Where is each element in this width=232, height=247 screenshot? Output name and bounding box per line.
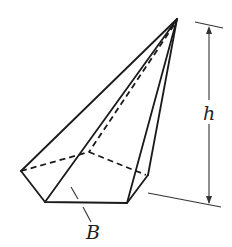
visible-edges bbox=[21, 19, 177, 203]
arrowhead-down-icon bbox=[206, 196, 212, 204]
edge-apex-front-left bbox=[45, 19, 177, 202]
pyramid-diagram: h B bbox=[0, 0, 232, 247]
hidden-edges bbox=[21, 25, 174, 175]
base-leader-upper bbox=[71, 187, 78, 199]
arrowhead-up-icon bbox=[206, 26, 212, 34]
edge-apex-front-right bbox=[127, 19, 177, 203]
base-leader-lower bbox=[83, 207, 91, 222]
hidden-edge-apex-back bbox=[89, 25, 174, 152]
base-label-group: B bbox=[71, 187, 100, 243]
height-label: h bbox=[203, 102, 215, 124]
base-label: B bbox=[85, 221, 100, 243]
